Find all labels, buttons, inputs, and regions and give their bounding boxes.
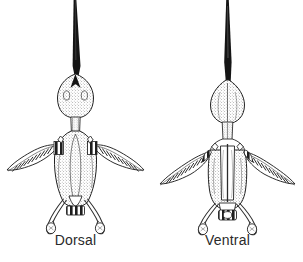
ventral-breast (208, 144, 246, 208)
dorsal-beak (73, 0, 81, 79)
ventral-pelvis (219, 203, 237, 220)
ventral-neck (222, 122, 233, 140)
dorsal-bird-illustration (0, 0, 151, 236)
dorsal-neck (71, 117, 80, 132)
figure-container: Dorsal (0, 0, 303, 262)
ventral-beak (224, 0, 231, 84)
dorsal-view-panel: Dorsal (0, 0, 151, 262)
ventral-skull (211, 80, 245, 124)
dorsal-view-label: Dorsal (0, 231, 151, 249)
ventral-view-panel: Ventral (152, 0, 303, 262)
ventral-bird-illustration (152, 0, 303, 236)
ventral-vent (223, 212, 231, 219)
dorsal-skull (58, 74, 94, 118)
ventral-view-label: Ventral (152, 231, 303, 249)
